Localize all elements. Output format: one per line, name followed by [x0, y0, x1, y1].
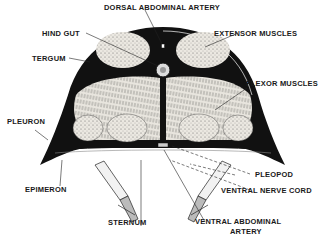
label-dorsal-abdominal-artery: DORSAL ABDOMINAL ARTERY	[104, 4, 220, 12]
label-sternum: STERNUM	[108, 219, 146, 227]
label-ventral-nerve-cord: VENTRAL NERVE CORD	[221, 187, 312, 195]
label-flexor-muscles: FLEXOR MUSCLES	[246, 80, 318, 88]
label-epimeron: EPIMERON	[25, 186, 67, 194]
label-pleopod: PLEOPOD	[255, 171, 293, 179]
label-extensor-muscles: EXTENSOR MUSCLES	[214, 30, 297, 38]
ventral-nerve-cord	[158, 143, 168, 147]
label-ventral-abdominal-artery-1: VENTRAL ABDOMINAL	[195, 218, 281, 226]
label-ventral-abdominal-artery-2: ARTERY	[230, 228, 262, 236]
label-tergum: TERGUM	[32, 55, 66, 63]
pleopod-left	[95, 161, 138, 222]
label-hind-gut: HIND GUT	[42, 30, 80, 38]
label-pleuron: PLEURON	[7, 118, 45, 126]
